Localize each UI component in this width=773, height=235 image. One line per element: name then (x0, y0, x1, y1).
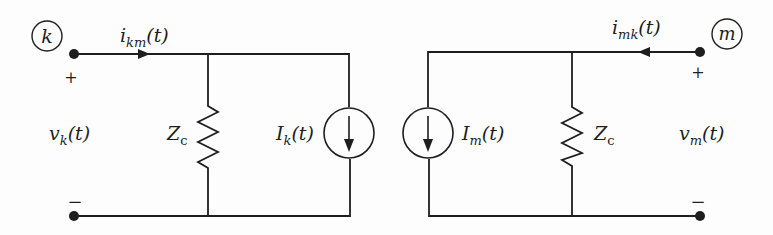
node-k-label: k (41, 25, 53, 47)
voltage-vk-label: vk(t) (49, 122, 90, 148)
resistor-zc-right (562, 52, 582, 216)
left-circuit: k ikm(t) + − vk(t) Zc Ik(t) (32, 21, 374, 221)
top-wire-right (428, 52, 700, 107)
source-im-label: Im(t) (461, 122, 504, 148)
current-source-ik (324, 108, 374, 158)
plus-sign-left: + (64, 68, 77, 87)
arrow-down-icon (423, 139, 433, 152)
current-arrow-right-icon (138, 49, 150, 59)
resistor-zc-left (198, 54, 218, 216)
current-ikm-label: ikm(t) (120, 24, 169, 50)
current-imk-label: imk(t) (612, 16, 661, 42)
circuit-diagram: k ikm(t) + − vk(t) Zc Ik(t) m (0, 0, 773, 235)
node-m-label: m (718, 23, 735, 44)
plus-sign-right: + (691, 63, 704, 82)
impedance-zc-right-label: Zc (593, 122, 614, 148)
minus-sign-left: − (67, 191, 82, 212)
bottom-wire-left (74, 159, 350, 216)
minus-sign-right: − (690, 191, 705, 212)
impedance-zc-left-label: Zc (166, 122, 187, 148)
bottom-wire-right (429, 159, 700, 216)
voltage-vm-label: vm(t) (679, 122, 725, 148)
current-source-im (403, 108, 453, 158)
top-wire-left (74, 54, 349, 107)
node-k-badge: k (32, 21, 62, 51)
node-m-badge: m (712, 19, 742, 49)
current-arrow-left-icon (638, 47, 650, 57)
source-ik-label: Ik(t) (275, 122, 314, 148)
arrow-down-icon (344, 139, 354, 152)
right-circuit: m imk(t) + − Im(t) Zc vm(t) (403, 16, 742, 221)
